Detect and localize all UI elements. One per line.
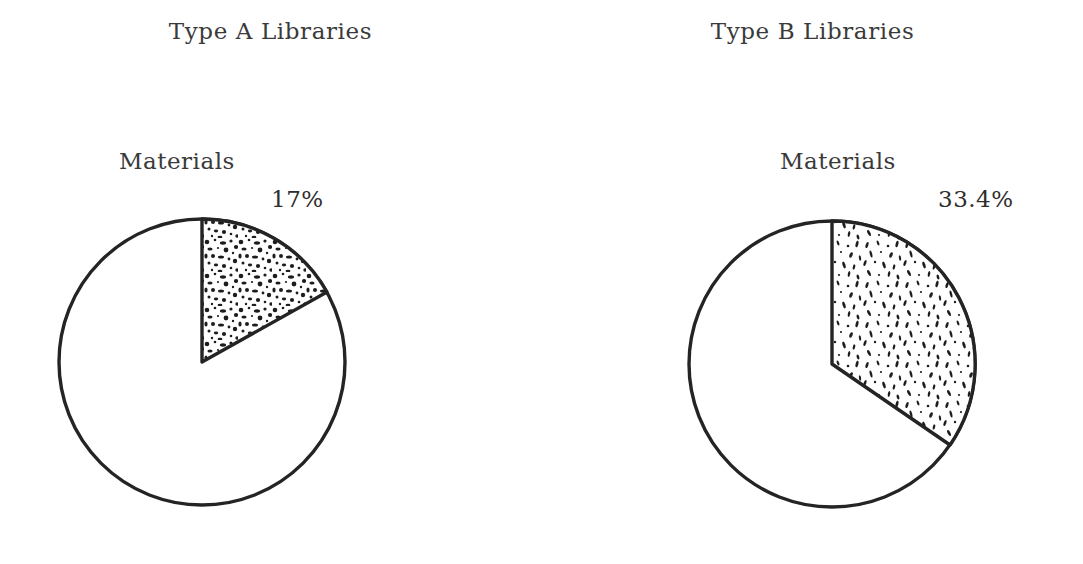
pie-b-slice-value: 33.4% [938,186,1014,212]
chart-panel-type-a: Type A Libraries [0,0,541,564]
chart-panel-type-b: Type B Libraries [542,0,1083,564]
pie-a-slice-value: 17% [271,186,324,212]
pie-b-graphic [542,0,1083,564]
pie-chart-figure: Type A Libraries [0,0,1083,564]
pie-a-slice-label: Materials [119,148,235,174]
pie-b-slice-label: Materials [780,148,896,174]
pie-a-graphic [0,0,541,564]
